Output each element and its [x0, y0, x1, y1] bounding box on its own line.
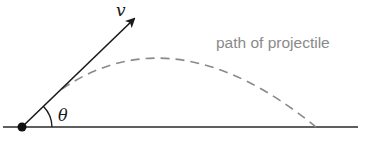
launch-point	[18, 123, 27, 132]
velocity-vector-arrow	[22, 19, 134, 127]
projectile-diagram: v θ path of projectile	[0, 0, 370, 148]
angle-label: θ	[58, 106, 68, 125]
path-label: path of projectile	[216, 34, 330, 51]
angle-arc	[44, 107, 53, 128]
projectile-path	[62, 58, 316, 127]
velocity-label: v	[116, 0, 126, 20]
